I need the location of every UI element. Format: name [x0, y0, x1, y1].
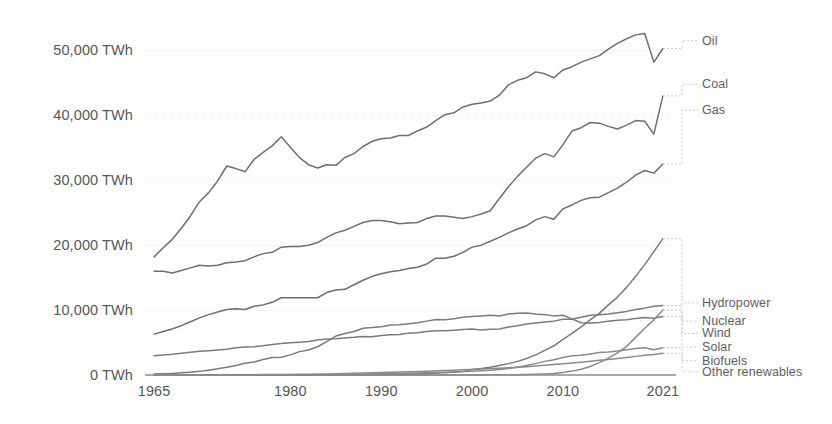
legend-leader-wind: [663, 239, 698, 334]
legend-leader-oil: [663, 41, 698, 49]
x-axis-tick-label: 1980: [274, 383, 307, 399]
series-label-coal[interactable]: Coal: [702, 77, 728, 91]
series-line-coal: [154, 96, 663, 273]
y-axis-tick-label: 50,000 TWh: [0, 42, 133, 58]
series-line-other-renewables: [154, 353, 663, 375]
y-axis-tick-label: 30,000 TWh: [0, 172, 133, 188]
legend-leader-biofuels: [663, 348, 698, 361]
series-line-solar: [154, 310, 663, 375]
y-axis-tick-label: 0 TWh: [0, 367, 133, 383]
y-axis-tick-label: 40,000 TWh: [0, 107, 133, 123]
y-axis-tick-label: 10,000 TWh: [0, 302, 133, 318]
series-line-gas: [154, 164, 663, 334]
x-axis-tick-label: 1990: [365, 383, 398, 399]
legend-leader-hydropower: [663, 303, 698, 306]
series-label-wind[interactable]: Wind: [702, 326, 731, 340]
series-label-solar[interactable]: Solar: [702, 340, 732, 354]
x-axis-tick-label: 2000: [456, 383, 489, 399]
series-line-hydropower: [154, 306, 663, 356]
series-label-gas[interactable]: Gas: [702, 103, 725, 117]
x-axis-tick-label: 1965: [138, 383, 171, 399]
series-label-other-renewables[interactable]: Other renewables: [702, 365, 802, 379]
energy-consumption-line-chart: 0 TWh10,000 TWh20,000 TWh30,000 TWh40,00…: [0, 0, 832, 424]
x-axis-tick-label: 2010: [547, 383, 580, 399]
series-label-oil[interactable]: Oil: [702, 34, 718, 48]
y-axis-tick-label: 20,000 TWh: [0, 237, 133, 253]
legend-leader-gas: [663, 110, 698, 164]
legend-leader-nuclear: [663, 317, 698, 322]
legend-leader-other-renewables: [663, 353, 698, 371]
legend-leader-coal: [663, 84, 698, 96]
legend-leader-solar: [663, 310, 698, 347]
series-label-hydropower[interactable]: Hydropower: [702, 296, 770, 310]
x-axis-tick-label: 2021: [647, 383, 680, 399]
